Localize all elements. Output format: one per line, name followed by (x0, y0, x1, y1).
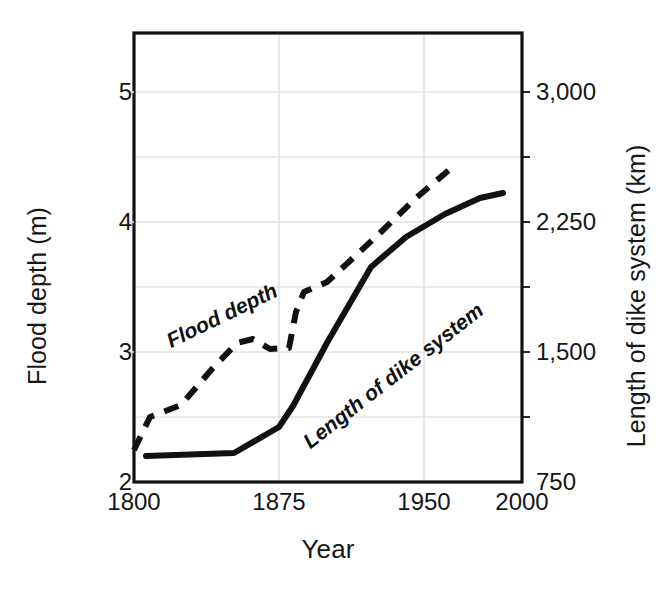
xtick-1800: 1800 (89, 490, 179, 514)
xtick-1875: 1875 (234, 490, 324, 514)
x-axis-label: Year (134, 534, 522, 565)
ytick-left-3: 3 (92, 340, 132, 364)
ytick-left-5: 5 (92, 80, 132, 104)
xtick-2000: 2000 (477, 490, 567, 514)
y-axis-label-right: Length of dike system (km) (613, 0, 659, 592)
gridlines-horizontal (134, 92, 522, 417)
chart-figure: 5 4 3 2 3,000 2,250 1,500 750 1800 1875 … (0, 0, 669, 592)
xtick-1950: 1950 (379, 490, 469, 514)
y-axis-label-left: Flood depth (m) (14, 0, 60, 592)
ytick-left-4: 4 (92, 210, 132, 234)
